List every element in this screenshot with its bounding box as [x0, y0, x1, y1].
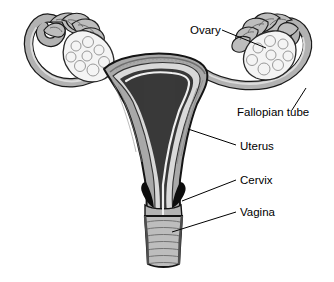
label-uterus: Uterus [240, 140, 274, 152]
diagram-canvas: Ovary Fallopian tube Uterus Cervix Vagin… [0, 0, 334, 282]
vagina-group [145, 216, 182, 267]
label-fallopian-tube: Fallopian tube [237, 106, 309, 118]
label-cervix: Cervix [240, 174, 273, 186]
label-vagina: Vagina [240, 206, 276, 218]
anatomy-diagram: Ovary Fallopian tube Uterus Cervix Vagin… [0, 0, 334, 282]
label-ovary: Ovary [190, 24, 221, 36]
